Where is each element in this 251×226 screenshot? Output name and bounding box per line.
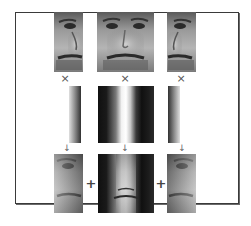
- weighted-face-center: [98, 154, 154, 213]
- weight-strip-center: [98, 86, 154, 143]
- weight-strip-right: [168, 86, 180, 143]
- arrow-down-icon: ↓: [120, 144, 130, 154]
- arrow-down-icon: ↓: [62, 144, 72, 154]
- weighted-face-right: [167, 154, 196, 213]
- face-image-center: [97, 12, 154, 72]
- face-image-right: [167, 12, 196, 72]
- arrow-down-icon: ↓: [177, 144, 187, 154]
- plus-icon: +: [155, 177, 167, 189]
- face-image-left: [54, 12, 83, 72]
- weighted-face-left: [54, 154, 83, 213]
- multiply-icon: ×: [59, 73, 71, 85]
- multiply-icon: ×: [119, 73, 131, 85]
- multiply-icon: ×: [175, 73, 187, 85]
- weight-strip-left: [69, 86, 81, 143]
- plus-icon: +: [85, 177, 97, 189]
